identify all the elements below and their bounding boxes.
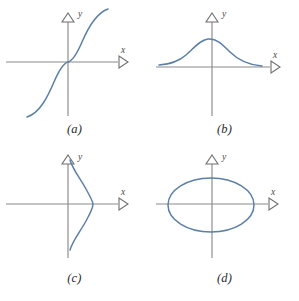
ellipse-curve (168, 178, 254, 232)
panel-b-caption: (b) (150, 122, 299, 137)
y-axis-label: y (221, 152, 227, 162)
y-axis-arrow-icon (62, 13, 74, 22)
y-axis-arrow-icon (206, 155, 218, 164)
x-axis-arrow-icon (271, 61, 280, 73)
y-axis-label: y (77, 152, 83, 162)
x-axis-arrow-icon (119, 56, 128, 68)
y-axis-label: y (77, 9, 83, 19)
x-axis-label: x (120, 45, 126, 55)
panel-c-caption: (c) (0, 271, 149, 286)
panel-d-caption: (d) (150, 271, 299, 286)
bell-curve (159, 39, 262, 66)
x-axis-label: x (272, 50, 278, 60)
x-axis-label: x (120, 187, 126, 197)
figure-container: y x (a) y x (b) y x (c) (0, 0, 299, 301)
x-axis-arrow-icon (119, 198, 128, 210)
y-axis-arrow-icon (206, 13, 218, 22)
panel-a-caption: (a) (0, 122, 149, 137)
sideways-s-curve (70, 160, 93, 250)
x-axis-label: x (270, 187, 276, 197)
y-axis-arrow-icon (62, 155, 74, 164)
x-axis-arrow-icon (269, 198, 278, 210)
y-axis-label: y (221, 9, 227, 19)
